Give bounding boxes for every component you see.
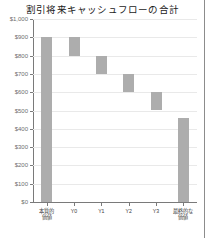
- gridline: [33, 74, 197, 75]
- x-axis-tick-label: Y1: [98, 208, 104, 214]
- gridline: [33, 92, 197, 93]
- x-axis-tick-label: 最終的な 価値: [173, 208, 193, 220]
- x-axis-tick-label: 本質的 価値: [39, 208, 54, 220]
- bar-最終的な価値: [178, 118, 189, 202]
- plot-area: $1,000$900$800$700$600$500$400$300$200$1…: [33, 19, 197, 202]
- x-axis-tick-mark: [129, 202, 130, 206]
- y-axis-tick-mark: [30, 74, 33, 75]
- y-axis-tick-mark: [30, 19, 33, 20]
- y-axis-tick-mark: [30, 92, 33, 93]
- y-axis-tick-mark: [30, 129, 33, 130]
- gridline: [33, 111, 197, 112]
- discounted-cash-flow-waterfall-chart: 割引将来キャッシュフローの合計 $1,000$900$800$700$600$5…: [0, 0, 205, 238]
- y-axis-tick-label: $800: [15, 53, 28, 59]
- y-axis-tick-mark: [30, 202, 33, 203]
- y-axis-tick-mark: [30, 37, 33, 38]
- gridline: [33, 19, 197, 20]
- y-axis-tick-label: $400: [15, 126, 28, 132]
- x-axis-tick-label: Y0: [71, 208, 77, 214]
- y-axis-tick-label: $300: [15, 144, 28, 150]
- y-axis-tick-label: $700: [15, 71, 28, 77]
- gridline: [33, 56, 197, 57]
- gridline: [33, 165, 197, 166]
- bar-Y1: [96, 56, 107, 74]
- x-axis-tick-mark: [101, 202, 102, 206]
- gridline: [33, 129, 197, 130]
- bar-本質的価値: [41, 37, 52, 202]
- y-axis-tick-mark: [30, 184, 33, 185]
- gridline: [33, 147, 197, 148]
- gridline: [33, 37, 197, 38]
- y-axis-tick-label: $0: [21, 199, 28, 205]
- y-axis-tick-label: $500: [15, 108, 28, 114]
- bar-Y2: [123, 74, 134, 92]
- x-axis-line: [33, 202, 197, 203]
- y-axis-tick-label: $900: [15, 34, 28, 40]
- y-axis-tick-mark: [30, 111, 33, 112]
- x-axis-tick-mark: [156, 202, 157, 206]
- y-axis-tick-label: $1,000: [10, 16, 28, 22]
- y-axis-tick-mark: [30, 165, 33, 166]
- y-axis-tick-label: $100: [15, 181, 28, 187]
- gridline: [33, 184, 197, 185]
- x-axis-tick-mark: [183, 202, 184, 206]
- y-axis-tick-mark: [30, 56, 33, 57]
- bar-Y0: [69, 37, 80, 55]
- x-axis-tick-label: Y3: [153, 208, 159, 214]
- y-axis-tick-label: $200: [15, 162, 28, 168]
- x-axis-tick-mark: [47, 202, 48, 206]
- y-axis-tick-mark: [30, 147, 33, 148]
- x-axis-tick-mark: [74, 202, 75, 206]
- y-axis-tick-label: $600: [15, 89, 28, 95]
- bar-Y3: [151, 92, 162, 110]
- chart-title: 割引将来キャッシュフローの合計: [0, 2, 205, 16]
- x-axis-tick-label: Y2: [125, 208, 131, 214]
